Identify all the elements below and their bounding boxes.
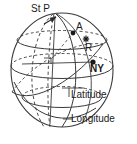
point-a-marker: [71, 31, 76, 36]
globe-diagram: [0, 0, 137, 144]
point-a-label: A: [76, 22, 83, 32]
point-r-label: R: [85, 43, 92, 53]
latitude-label: Latitude: [71, 90, 107, 100]
latitude-circle-upper-front: [17, 40, 107, 50]
point-ny-label: NY: [90, 64, 104, 74]
point-r-center-dot: [85, 38, 88, 41]
radius-to-point-a: [48, 33, 73, 63]
pole-label: St P: [31, 4, 50, 14]
longitude-label: Longitude: [71, 114, 115, 124]
globe-latitude-longitude-figure: St P A R NY Latitude Longitude: [0, 0, 137, 144]
latitude-circle-upper-back: [17, 31, 107, 40]
